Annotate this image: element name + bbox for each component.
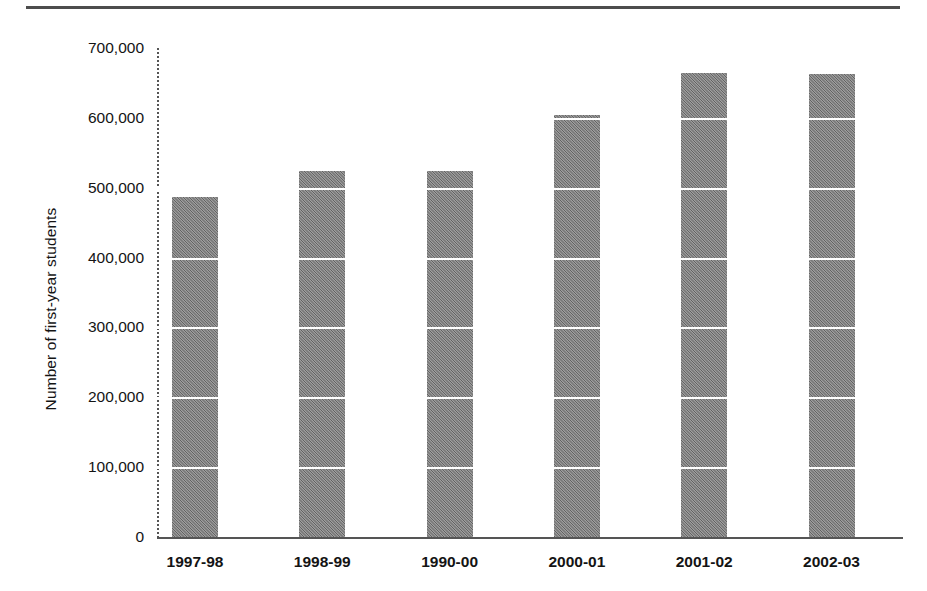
bar <box>809 74 855 537</box>
x-axis-line <box>157 537 903 539</box>
x-tick-label: 2000-01 <box>517 553 637 571</box>
y-tick-label: 0 <box>24 528 144 546</box>
gridline <box>157 467 903 469</box>
y-tick-label: 100,000 <box>24 458 144 476</box>
plot-area: 0100,000200,000300,000400,000500,000600,… <box>157 48 903 537</box>
x-tick-label: 1990-00 <box>390 553 510 571</box>
gridline <box>157 327 903 329</box>
x-tick-label: 2002-03 <box>772 553 892 571</box>
y-tick-label: 400,000 <box>24 249 144 267</box>
top-horizontal-rule <box>26 6 900 9</box>
x-tick-label: 2001-02 <box>644 553 764 571</box>
x-tick-label: 1997-98 <box>135 553 255 571</box>
y-tick-label: 600,000 <box>24 109 144 127</box>
gridline <box>157 188 903 190</box>
y-tick-label: 300,000 <box>24 318 144 336</box>
gridline <box>157 118 903 120</box>
bar <box>172 197 218 537</box>
y-tick-label: 500,000 <box>24 179 144 197</box>
gridline <box>157 258 903 260</box>
y-tick-label: 700,000 <box>24 39 144 57</box>
gridline <box>157 397 903 399</box>
bar <box>681 73 727 537</box>
x-tick-label: 1998-99 <box>262 553 382 571</box>
bar <box>427 171 473 537</box>
bar <box>554 115 600 537</box>
bar <box>299 171 345 537</box>
y-axis-line <box>157 48 159 537</box>
bar-chart-figure: Number of first-year students 0100,00020… <box>0 0 927 591</box>
y-tick-label: 200,000 <box>24 388 144 406</box>
